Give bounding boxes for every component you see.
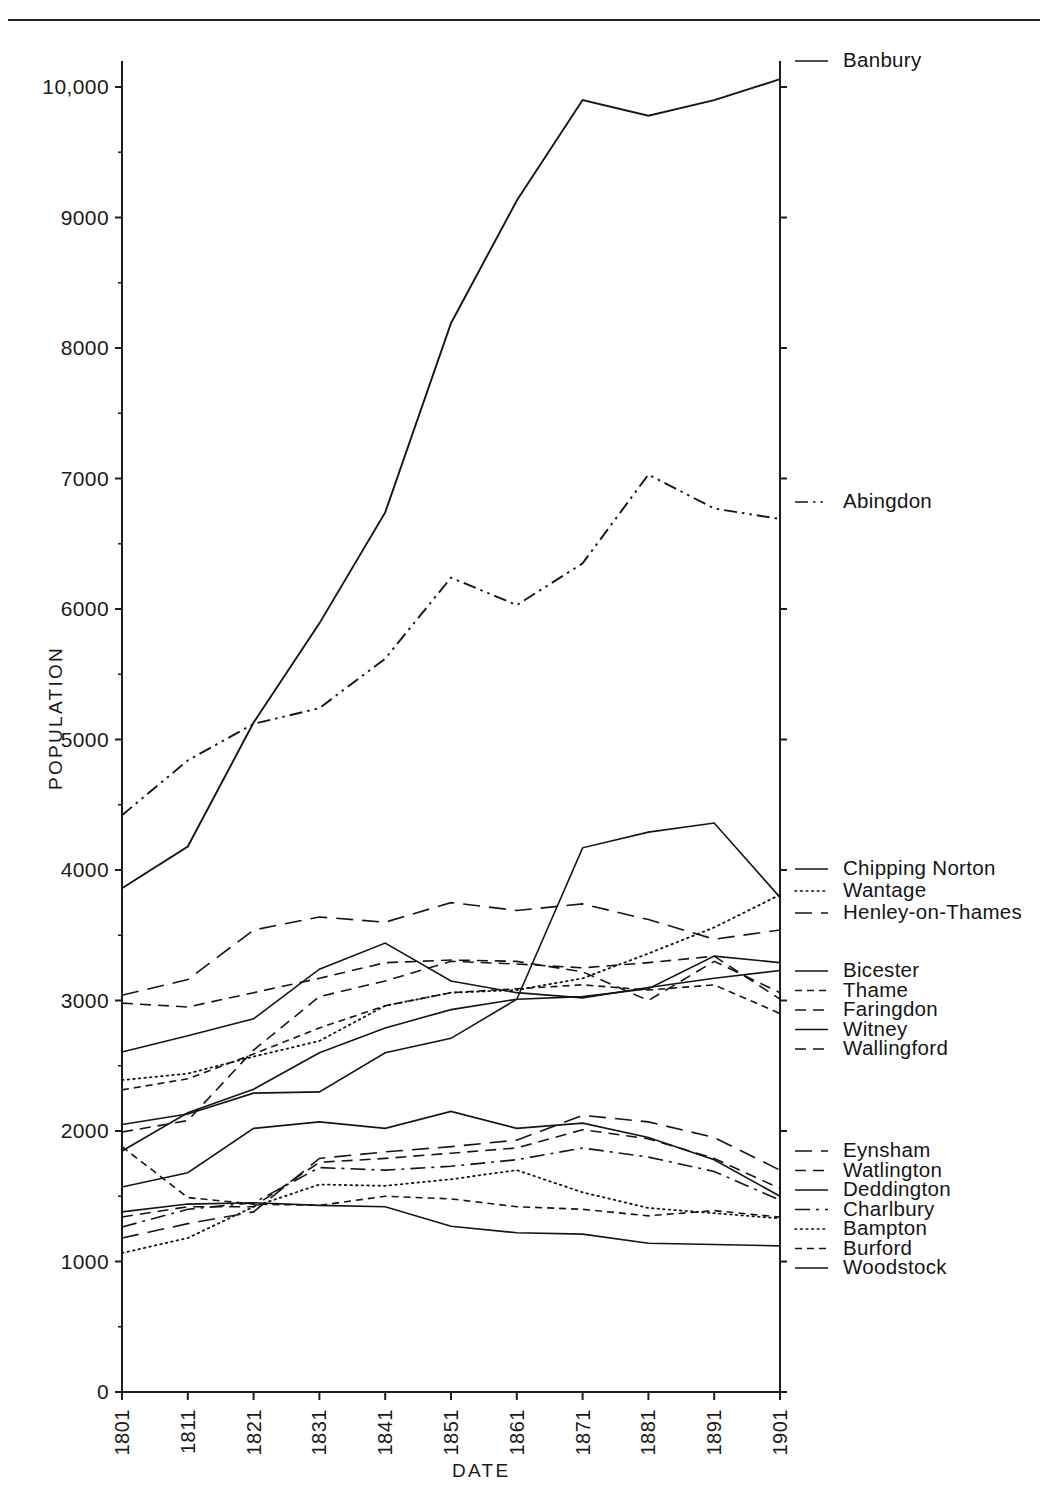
x-tick-label: 1831 (308, 1409, 330, 1456)
legend-layer: BanburyAbingdonChipping NortonWantageHen… (795, 48, 1022, 1278)
x-tick-label: 1861 (506, 1409, 528, 1456)
chart-canvas: 010002000300040005000600070008000900010,… (0, 0, 1049, 1506)
series-line-eynsham (122, 1115, 780, 1238)
legend-label-wallingford: Wallingford (843, 1036, 948, 1059)
y-tick-label: 7000 (61, 467, 109, 490)
x-tick-label: 1871 (572, 1409, 594, 1456)
series-line-abingdon (122, 475, 780, 816)
y-axis-title: POPULATION (45, 646, 66, 790)
legend-label-woodstock: Woodstock (843, 1255, 947, 1278)
legend-label-banbury: Banbury (843, 48, 922, 71)
x-tick-label: 1841 (374, 1409, 396, 1456)
x-tick-label: 1901 (769, 1409, 791, 1456)
y-tick-label: 8000 (61, 336, 109, 359)
series-line-wantage (122, 895, 780, 1080)
x-tick-label: 1811 (177, 1409, 199, 1454)
x-tick-label: 1801 (111, 1409, 133, 1456)
x-tick-label: 1851 (440, 1409, 462, 1456)
x-tick-label: 1821 (243, 1409, 265, 1456)
legend-label-chipping-norton: Chipping Norton (843, 856, 996, 879)
series-line-woodstock (122, 1203, 780, 1246)
y-tick-label: 10,000 (42, 75, 109, 98)
x-tick-label: 1881 (637, 1409, 659, 1456)
y-tick-label: 6000 (61, 597, 109, 620)
series-line-banbury (122, 79, 780, 888)
population-line-chart: 010002000300040005000600070008000900010,… (0, 0, 1049, 1506)
x-axis-title: DATE (452, 1460, 510, 1481)
y-tick-label: 2000 (61, 1119, 109, 1142)
y-tick-label: 9000 (61, 206, 109, 229)
y-tick-label: 3000 (61, 989, 109, 1012)
legend-label-wantage: Wantage (843, 878, 926, 901)
series-layer (122, 79, 780, 1253)
y-tick-label: 1000 (61, 1250, 109, 1273)
y-tick-label: 0 (97, 1380, 109, 1403)
legend-label-henley-on-thames: Henley-on-Thames (843, 900, 1022, 923)
series-line-charlbury (122, 1148, 780, 1227)
x-tick-label: 1891 (703, 1409, 725, 1456)
series-line-chipping-norton (122, 823, 780, 1124)
series-line-bampton (122, 1170, 780, 1253)
y-tick-label: 4000 (61, 858, 109, 881)
series-line-witney (122, 956, 780, 1151)
y-tick-label: 5000 (61, 728, 109, 751)
legend-label-abingdon: Abingdon (843, 489, 932, 512)
